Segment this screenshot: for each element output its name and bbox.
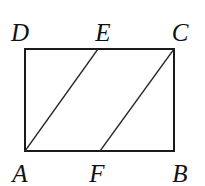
- label-a: A: [10, 160, 28, 186]
- label-f: F: [88, 160, 105, 186]
- segment-fc: [100, 49, 174, 151]
- label-d: D: [10, 19, 29, 46]
- segment-ae: [25, 49, 98, 151]
- geometry-diagram: D E C A F B: [0, 0, 205, 186]
- label-c: C: [172, 19, 189, 46]
- label-e: E: [94, 19, 110, 46]
- label-b: B: [172, 160, 187, 186]
- rectangle-abcd: [25, 49, 174, 151]
